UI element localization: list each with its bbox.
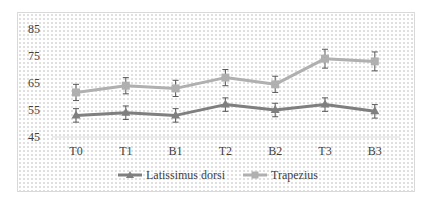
legend: Latissimus dorsi Trapezius [118, 168, 318, 182]
data-point [271, 80, 279, 88]
square-marker-icon [252, 172, 259, 179]
y-tick-label: 75 [28, 49, 40, 63]
y-tick-label: 45 [28, 130, 40, 144]
x-tick-label: T0 [69, 144, 82, 158]
y-tick-label: 55 [28, 103, 40, 117]
y-axis: 4555657585 [28, 22, 40, 144]
x-tick-label: B3 [368, 144, 382, 158]
x-tick-label: B1 [169, 144, 183, 158]
legend-item-trapezius: Trapezius [243, 168, 318, 182]
data-point [172, 84, 180, 92]
y-tick-label: 85 [28, 22, 40, 36]
data-point [321, 55, 329, 63]
data-point [221, 74, 229, 82]
legend-label: Trapezius [271, 168, 318, 182]
x-tick-label: T1 [119, 144, 132, 158]
x-tick-label: T3 [318, 144, 331, 158]
x-axis: T0T1B1T2B2T3B3 [69, 144, 381, 158]
data-point [371, 57, 379, 65]
data-point [122, 82, 130, 90]
series-group [72, 49, 380, 122]
series-trapezius [72, 49, 379, 100]
line-chart: 4555657585 T0T1B1T2B2T3B3 Latissimus dor… [0, 0, 431, 206]
legend-item-latissimus-dorsi: Latissimus dorsi [118, 168, 226, 182]
legend-label: Latissimus dorsi [146, 168, 226, 182]
x-tick-label: T2 [219, 144, 232, 158]
series-latissimus-dorsi [72, 98, 380, 122]
data-point [72, 88, 80, 96]
y-tick-label: 65 [28, 76, 40, 90]
x-tick-label: B2 [268, 144, 282, 158]
